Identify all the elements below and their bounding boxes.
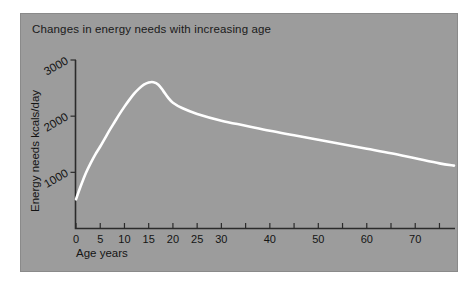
axis-lines bbox=[76, 60, 456, 229]
data-series-group bbox=[76, 82, 454, 199]
x-axis-title: Age years bbox=[76, 247, 128, 259]
x-tick-label: 25 bbox=[191, 233, 203, 245]
x-tick-label: 30 bbox=[215, 233, 227, 245]
x-tick-label: 60 bbox=[361, 233, 373, 245]
x-tick-label: 15 bbox=[143, 233, 155, 245]
y-tick-label: 2000 bbox=[42, 111, 70, 134]
x-tick-label: 20 bbox=[167, 233, 179, 245]
x-tick-label: 5 bbox=[97, 233, 103, 245]
axes-group bbox=[76, 60, 456, 229]
y-axis-title: Energy needs kcals/day bbox=[29, 90, 41, 212]
x-tick-label: 10 bbox=[118, 233, 130, 245]
y-tick-label: 3000 bbox=[42, 54, 70, 77]
x-tick-label: 50 bbox=[312, 233, 324, 245]
figure-canvas: Changes in energy needs with increasing … bbox=[0, 0, 475, 285]
plot-area: 05101520253040506070 100020003000 Age ye… bbox=[21, 14, 458, 272]
y-tick-labels: 100020003000 bbox=[42, 54, 70, 190]
x-tick-label: 40 bbox=[264, 233, 276, 245]
x-tick-label: 0 bbox=[73, 233, 79, 245]
x-tick-marks bbox=[76, 223, 439, 229]
y-tick-label: 1000 bbox=[42, 167, 70, 190]
chart-panel: Changes in energy needs with increasing … bbox=[20, 13, 458, 272]
x-tick-labels: 05101520253040506070 bbox=[73, 233, 421, 245]
energy-needs-curve bbox=[76, 82, 454, 199]
x-tick-label: 70 bbox=[409, 233, 421, 245]
